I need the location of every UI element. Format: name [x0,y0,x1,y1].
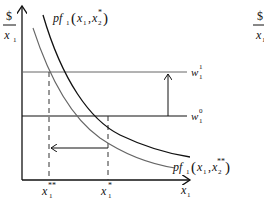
svg-text:1: 1 [49,192,53,200]
svg-text:1: 1 [108,192,112,200]
svg-text:1: 1 [199,63,203,71]
svg-text:1: 1 [13,36,17,44]
svg-text:1: 1 [262,36,264,44]
x-tick-x1-double-star: x 1 ** [41,181,56,200]
svg-text:x: x [41,184,48,198]
svg-text:1: 1 [66,19,70,27]
svg-text:2: 2 [98,19,102,27]
svg-text:*: * [108,181,112,190]
svg-text:,: , [208,160,211,174]
svg-text:w: w [191,66,199,78]
svg-text:(: ( [191,159,196,176]
svg-text:,: , [88,11,91,25]
svg-text:1: 1 [203,168,207,176]
svg-text:x: x [255,28,262,42]
svg-text:pf: pf [172,160,184,174]
svg-text:): ) [103,10,108,27]
x-axis-label: x 1 [180,183,191,199]
svg-text:w: w [191,110,199,122]
factor-demand-diagram: $ x 1 pf 1 ( x 1 , x 2 * ) pf 1 ( x 1 , … [0,0,264,200]
svg-text:pf: pf [52,11,64,25]
svg-text:x: x [3,28,10,42]
right-partial-axis-label: $ x 1 [253,9,264,44]
svg-text:$: $ [257,9,263,23]
svg-text:1: 1 [199,73,203,81]
svg-text:1: 1 [199,117,203,125]
svg-text:x: x [91,11,98,25]
svg-text:): ) [225,159,230,176]
svg-text:x: x [196,160,203,174]
svg-text:2: 2 [218,168,222,176]
curve-label-pf1-x2-star: pf 1 ( x 1 , x 2 * ) [52,8,108,27]
svg-text:$: $ [6,9,12,23]
svg-text:x: x [100,184,107,198]
x-tick-x1-star: x 1 * [100,181,112,200]
svg-text:x: x [180,183,187,197]
curve-label-pf1-x2-double-star: pf 1 ( x 1 , x 2 ** ) [172,157,230,176]
svg-text:**: ** [217,157,225,166]
wage-label-w1-1: w 1 1 [191,63,203,81]
svg-text:*: * [98,8,102,17]
svg-text:(: ( [71,10,76,27]
y-axis-label: $ x 1 [3,9,17,44]
svg-text:1: 1 [186,168,190,176]
svg-text:1: 1 [83,19,87,27]
wage-label-w1-0: w 1 0 [191,107,203,125]
svg-text:0: 0 [199,107,203,115]
svg-text:**: ** [48,181,56,190]
svg-text:1: 1 [187,191,191,199]
svg-text:x: x [76,11,83,25]
